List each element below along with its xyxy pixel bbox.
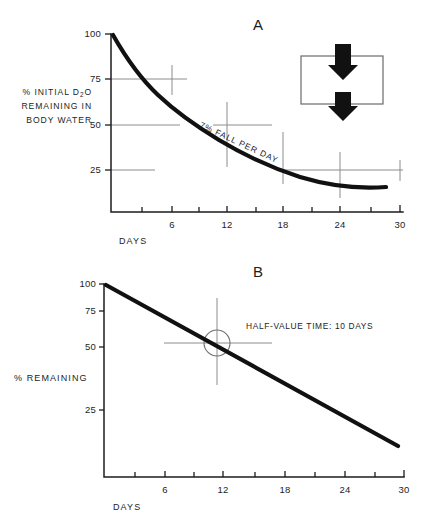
- panel-b-crosshairs: [164, 298, 272, 385]
- y-tick-label: 25: [90, 164, 101, 175]
- panel-a-crosshairs: [111, 65, 403, 198]
- panel-a: A 100: [22, 16, 406, 246]
- panel-b-y-axis-title: % REMAINING: [14, 373, 88, 383]
- panel-b-x-axis-title: DAYS: [113, 502, 141, 512]
- x-tick-label: 12: [218, 484, 229, 495]
- y-tick-label: 75: [90, 73, 101, 84]
- panel-b-axes: [104, 284, 404, 477]
- panel-a-y-ticks: [105, 34, 111, 170]
- y-tick-label: 100: [80, 278, 96, 289]
- outflow-arrow-icon: [328, 92, 358, 121]
- panel-a-y-axis-title-line3: BODY WATER: [26, 115, 92, 125]
- x-tick-label: 6: [169, 219, 174, 230]
- panel-b-x-ticks: [135, 470, 404, 477]
- panel-a-annotation: 7% FALL PER DAY: [198, 120, 280, 165]
- x-tick-label: 6: [162, 484, 167, 495]
- panel-a-y-axis-title: % INITIAL D2O: [23, 87, 92, 98]
- y-tick-label: 50: [85, 341, 96, 352]
- panel-b-annotation: HALF-VALUE TIME: 10 DAYS: [246, 321, 373, 331]
- inflow-arrow-icon: [328, 44, 358, 80]
- y-tick-label: 100: [85, 28, 101, 39]
- x-tick-label: 24: [335, 219, 346, 230]
- panel-b: B 100 75 50 25: [14, 263, 409, 512]
- x-tick-label: 30: [395, 219, 406, 230]
- panel-a-letter: A: [253, 16, 263, 33]
- figure-canvas: A 100: [0, 0, 427, 527]
- y-tick-label: 75: [85, 305, 96, 316]
- x-tick-label: 12: [222, 219, 233, 230]
- x-tick-label: 30: [399, 484, 410, 495]
- panel-a-x-axis-title: DAYS: [119, 236, 147, 246]
- x-tick-label: 18: [280, 484, 291, 495]
- figure-root: A 100: [0, 0, 427, 527]
- y-tick-label: 25: [85, 404, 96, 415]
- panel-a-x-ticks: [142, 205, 400, 212]
- x-tick-label: 24: [340, 484, 351, 495]
- panel-a-y-axis-title-line2: REMAINING IN: [22, 101, 92, 111]
- x-tick-label: 18: [278, 219, 289, 230]
- panel-b-letter: B: [253, 263, 263, 280]
- panel-b-data-line: [106, 285, 398, 446]
- body-water-compartment-diagram: [301, 44, 383, 121]
